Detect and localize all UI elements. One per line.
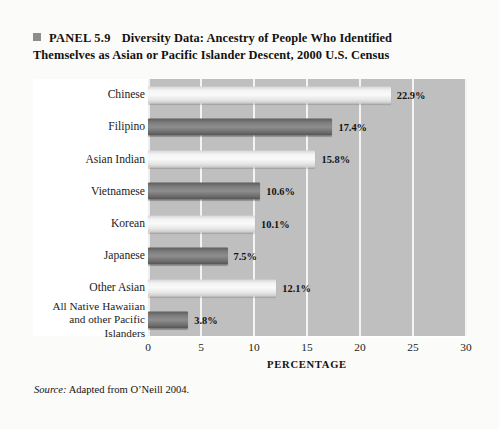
bar-track: 12.1% [148, 272, 466, 304]
panel-title-line-1: PANEL 5.9Diversity Data: Ancestry of Peo… [33, 30, 463, 47]
bar-track: 17.4% [148, 111, 466, 143]
bar-row: Vietnamese10.6% [33, 175, 466, 207]
bar-value-label: 15.8% [321, 154, 350, 165]
bar[interactable] [148, 279, 276, 296]
bar-row: Filipino17.4% [33, 111, 466, 143]
x-tick-label: 10 [234, 341, 274, 353]
panel-title-block: PANEL 5.9Diversity Data: Ancestry of Peo… [33, 30, 463, 64]
category-label-line: Islanders [0, 327, 145, 340]
bar-value-label: 10.6% [266, 186, 295, 197]
panel-tag: PANEL 5.9 [49, 31, 111, 45]
chart-figure: Chinese22.9%Filipino17.4%Asian Indian15.… [33, 79, 466, 364]
panel-title-text-1: Diversity Data: Ancestry of People Who I… [122, 31, 392, 45]
category-label: Japanese [0, 249, 145, 263]
source-note: Source: Adapted from O’Neill 2004. [34, 384, 189, 395]
bar[interactable] [148, 183, 260, 200]
category-label: Vietnamese [0, 185, 145, 199]
bar-value-label: 12.1% [282, 282, 311, 293]
bar-value-label: 7.5% [234, 250, 257, 261]
category-label: Other Asian [0, 281, 145, 295]
category-label-line: and other Pacific [0, 313, 145, 326]
bar-track: 10.6% [148, 175, 466, 207]
bar-value-label: 10.1% [261, 218, 290, 229]
x-axis-line [148, 336, 466, 338]
bar-track: 15.8% [148, 143, 466, 175]
category-label: Filipino [0, 120, 145, 134]
x-tick-label: 25 [393, 341, 433, 353]
bar[interactable] [148, 151, 315, 168]
category-label: Korean [0, 217, 145, 231]
square-bullet-icon [33, 33, 41, 41]
x-axis-title: PERCENTAGE [148, 359, 466, 370]
x-tick-label: 5 [181, 341, 221, 353]
category-label: Asian Indian [0, 153, 145, 167]
x-tick-label: 15 [287, 341, 327, 353]
bar[interactable] [148, 215, 255, 232]
bar[interactable] [148, 119, 332, 136]
source-label: Source: [34, 384, 67, 395]
bar-track: 10.1% [148, 208, 466, 240]
panel-figure: PANEL 5.9Diversity Data: Ancestry of Peo… [0, 0, 499, 429]
category-label-line: All Native Hawaiian [0, 300, 145, 313]
bar-value-label: 3.8% [194, 314, 217, 325]
category-label-line: Korean [0, 217, 145, 231]
bar[interactable] [148, 247, 228, 264]
category-label-line: Filipino [0, 120, 145, 134]
bar-row: Asian Indian15.8% [33, 143, 466, 175]
x-tick-label: 30 [446, 341, 486, 353]
bar[interactable] [148, 311, 188, 328]
source-text: Adapted from O’Neill 2004. [69, 384, 190, 395]
category-label-line: Other Asian [0, 281, 145, 295]
bar-row: Japanese7.5% [33, 240, 466, 272]
category-label: All Native Hawaiianand other PacificIsla… [0, 300, 145, 340]
x-tick-label: 20 [340, 341, 380, 353]
category-label-line: Chinese [0, 88, 145, 102]
bar-row: All Native Hawaiianand other PacificIsla… [33, 304, 466, 336]
panel-title-line-2: Themselves as Asian or Pacific Islander … [33, 47, 463, 64]
x-tick-label: 0 [128, 341, 168, 353]
bar[interactable] [148, 87, 391, 104]
bar-track: 7.5% [148, 240, 466, 272]
bar-value-label: 22.9% [397, 90, 426, 101]
bar-value-label: 17.4% [338, 122, 367, 133]
category-label: Chinese [0, 88, 145, 102]
category-label-line: Asian Indian [0, 153, 145, 167]
bar-track: 22.9% [148, 79, 466, 111]
bar-row: Korean10.1% [33, 208, 466, 240]
bar-track: 3.8% [148, 304, 466, 336]
bar-row: Chinese22.9% [33, 79, 466, 111]
category-label-line: Japanese [0, 249, 145, 263]
category-label-line: Vietnamese [0, 185, 145, 199]
